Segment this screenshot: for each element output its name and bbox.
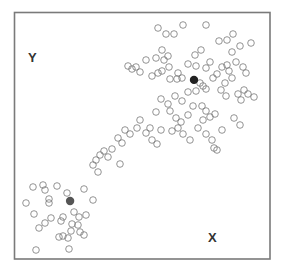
centroid-marker [66,197,74,205]
plot-frame [15,13,271,260]
scatter-chart [0,0,286,274]
y-axis-label: Y [28,51,37,64]
centroid-marker [190,76,198,84]
x-axis-label: X [208,231,217,244]
